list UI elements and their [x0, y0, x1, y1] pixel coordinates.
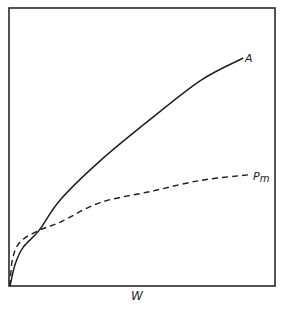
chart: A Pm W	[0, 0, 282, 309]
series-pm-label: Pm	[253, 170, 270, 184]
plot-frame	[9, 8, 275, 286]
series-pm-line	[10, 175, 249, 286]
series-a-line	[10, 58, 243, 286]
series-a-label: A	[244, 52, 253, 65]
series-pm-label-sub: m	[260, 173, 270, 184]
x-axis-label: W	[131, 289, 144, 303]
